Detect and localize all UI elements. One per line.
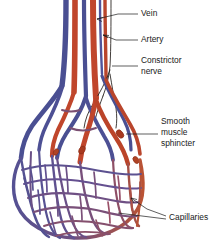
label-smooth-muscle-sphincter-line3: sphincter <box>161 138 195 148</box>
artery-trunk-3 <box>105 0 106 80</box>
diagram-canvas: Vein Artery Constrictor nerve Smooth mus… <box>0 0 221 243</box>
capillary-bed-rim <box>14 158 144 238</box>
arcade-crossbar-2 <box>70 128 96 130</box>
label-constrictor-nerve-line1: Constrictor <box>141 55 182 65</box>
artery-trunk-2 <box>93 0 96 98</box>
vein-trunk-1 <box>62 0 66 86</box>
leader-line-vein <box>97 14 138 19</box>
capillary-strut-d <box>94 172 96 198</box>
capillary-strut-n <box>24 178 30 198</box>
label-smooth-muscle-sphincter-line2: muscle <box>161 127 188 137</box>
arcade-crossbar-1 <box>62 110 80 112</box>
venule-arc-left-inner <box>39 88 62 150</box>
vein-trunk-3 <box>100 0 102 74</box>
venule-arc-left-outer <box>21 86 62 158</box>
vein-trunk-2 <box>84 0 86 96</box>
capillary-bed-diagram: Vein Artery Constrictor nerve Smooth mus… <box>0 0 221 243</box>
capillary-rib-3 <box>52 156 74 238</box>
label-constrictor-nerve-line2: nerve <box>141 66 162 76</box>
label-smooth-muscle-sphincter-line1: Smooth <box>161 116 190 126</box>
capillary-arc-5 <box>44 221 133 228</box>
label-capillaries: Capillaries <box>169 212 208 222</box>
label-vein: Vein <box>141 8 158 18</box>
capillary-strut-b <box>45 165 47 192</box>
labels-group: Vein Artery Constrictor nerve Smooth mus… <box>141 8 208 222</box>
capillary-strut-o <box>139 182 140 202</box>
vessel-trunk-group <box>62 0 106 98</box>
label-artery: Artery <box>141 34 164 44</box>
artery-trunk-1 <box>74 0 75 92</box>
